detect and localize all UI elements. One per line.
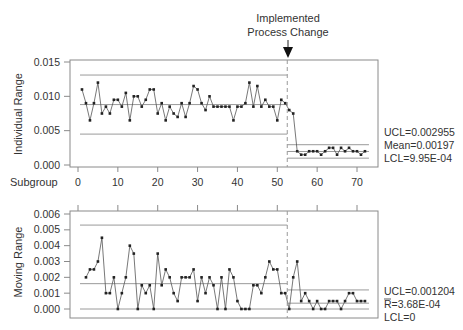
- data-point: [232, 276, 235, 279]
- x-tick-label: 30: [192, 176, 204, 188]
- lower-stats: UCL=0.001204 R=3.68E-04 LCL=0: [384, 285, 455, 323]
- data-point: [121, 292, 124, 295]
- upper-mean-label: Mean=0.00197: [384, 139, 455, 151]
- data-point: [236, 300, 239, 303]
- data-point: [101, 112, 104, 115]
- data-point: [168, 276, 171, 279]
- data-point: [320, 153, 323, 156]
- lower-y-axis-title: Moving Range: [12, 227, 24, 298]
- data-point: [117, 308, 120, 311]
- data-line: [82, 83, 365, 155]
- lower-control-limits: [80, 225, 369, 309]
- data-point: [360, 300, 363, 303]
- data-point: [144, 98, 147, 101]
- upper-control-limits: [80, 75, 369, 158]
- data-point: [276, 268, 279, 271]
- data-point: [192, 85, 195, 88]
- data-point: [308, 300, 311, 303]
- data-point: [188, 276, 191, 279]
- data-point: [328, 147, 331, 150]
- data-point: [296, 150, 299, 153]
- upper-y-axis: 0.0000.0050.0100.015: [34, 56, 70, 171]
- data-point: [129, 244, 132, 247]
- data-point: [248, 308, 251, 311]
- data-point: [105, 105, 108, 108]
- data-point: [260, 292, 263, 295]
- y-tick-label: 0.005: [34, 124, 60, 136]
- data-point: [292, 112, 295, 115]
- upper-lcl-label: LCL=9.95E-04: [384, 152, 452, 164]
- data-point: [172, 292, 175, 295]
- data-point: [188, 102, 191, 105]
- data-point: [113, 276, 116, 279]
- data-point: [224, 105, 227, 108]
- data-point: [85, 102, 88, 105]
- data-point: [256, 284, 259, 287]
- annotation-line-2: Process Change: [247, 26, 328, 38]
- data-point: [208, 276, 211, 279]
- data-point: [184, 276, 187, 279]
- data-point: [176, 116, 179, 119]
- y-tick-label: 0.001: [34, 287, 60, 299]
- upper-x-axis: 010203040506070: [75, 167, 363, 188]
- data-point: [288, 308, 291, 311]
- data-point: [164, 119, 167, 122]
- data-point: [97, 81, 100, 84]
- data-point: [133, 252, 136, 255]
- data-point: [316, 300, 319, 303]
- data-point: [324, 150, 327, 153]
- data-point: [332, 147, 335, 150]
- data-point: [148, 88, 151, 91]
- data-point: [236, 105, 239, 108]
- lower-lcl-label: LCL=0: [384, 311, 415, 323]
- data-point: [81, 88, 84, 91]
- data-point: [300, 300, 303, 303]
- data-point: [200, 276, 203, 279]
- down-arrow-icon: [283, 47, 293, 58]
- data-point: [352, 292, 355, 295]
- data-point: [244, 102, 247, 105]
- data-point: [109, 112, 112, 115]
- data-point: [312, 150, 315, 153]
- data-point: [268, 105, 271, 108]
- upper-ucl-label: UCL=0.002955: [384, 126, 455, 138]
- data-point: [216, 105, 219, 108]
- y-tick-label: 0.004: [34, 239, 60, 251]
- data-point: [196, 88, 199, 91]
- data-point: [344, 300, 347, 303]
- data-point: [172, 112, 175, 115]
- data-point: [308, 150, 311, 153]
- data-point: [340, 308, 343, 311]
- data-point: [136, 95, 139, 98]
- control-chart: Implemented Process Change 0.0000.0050.0…: [0, 0, 463, 330]
- data-point: [180, 276, 183, 279]
- data-point: [228, 268, 231, 271]
- data-point: [140, 284, 143, 287]
- y-tick-label: 0.002: [34, 271, 60, 283]
- x-tick-label: 40: [232, 176, 244, 188]
- data-point: [256, 85, 259, 88]
- data-point: [344, 150, 347, 153]
- data-point: [276, 119, 279, 122]
- data-point: [364, 150, 367, 153]
- data-point: [93, 268, 96, 271]
- data-point: [320, 308, 323, 311]
- data-point: [280, 98, 283, 101]
- data-point: [160, 102, 163, 105]
- data-point: [220, 105, 223, 108]
- data-point: [304, 292, 307, 295]
- y-tick-label: 0.010: [34, 90, 60, 102]
- data-point: [97, 260, 100, 263]
- x-axis-title: Subgroup: [10, 176, 58, 188]
- data-point: [89, 119, 92, 122]
- x-tick-label: 10: [112, 176, 124, 188]
- data-point: [212, 105, 215, 108]
- data-point: [284, 102, 287, 105]
- upper-y-axis-title: Individual Range: [12, 73, 24, 155]
- data-point: [109, 292, 112, 295]
- lower-rbar-label: R=3.68E-04: [384, 298, 440, 310]
- data-point: [240, 308, 243, 311]
- data-point: [164, 268, 167, 271]
- data-point: [292, 276, 295, 279]
- data-point: [312, 308, 315, 311]
